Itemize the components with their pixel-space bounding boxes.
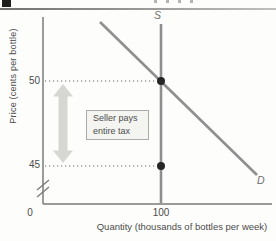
supply-curve-label: S: [154, 9, 161, 21]
x-tick-0: 0: [20, 207, 40, 218]
y-tick-50: 50: [18, 75, 40, 86]
demand-curve: [100, 22, 257, 175]
x-axis-title: Quantity (thousands of bottles per week): [88, 221, 276, 232]
annotation-line-1: Seller pays: [93, 112, 148, 125]
x-tick-100: 100: [146, 207, 176, 218]
annotation-box: Seller pays entire tax: [86, 110, 149, 140]
annotation-line-2: entire tax: [93, 125, 148, 138]
figure-tax-incidence: Price (cents per bottle) 50 45 0 100 S D…: [0, 0, 276, 241]
y-tick-45: 45: [18, 159, 40, 170]
y-axis-title: Price (cents per bottle): [8, 28, 18, 123]
point-price-50: [157, 77, 165, 85]
demand-curve-label: D: [257, 174, 265, 186]
point-price-45: [157, 162, 165, 170]
tax-burden-arrow: [53, 84, 73, 163]
